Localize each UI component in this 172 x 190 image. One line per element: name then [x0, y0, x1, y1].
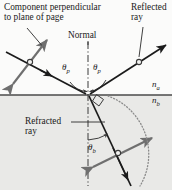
theta-b-subscript: b	[92, 147, 95, 154]
brewster-angle-diagram: Component perpendicular to plane of page…	[0, 0, 172, 190]
label-component-perpendicular-line2: to plane of page	[4, 12, 101, 22]
label-refracted-ray-line1: Refracted	[25, 116, 61, 126]
label-index-nb: nb	[152, 96, 160, 107]
label-index-na: na	[152, 80, 160, 91]
label-reflected-ray-line1: Reflected	[131, 2, 167, 12]
label-normal: Normal	[68, 30, 96, 40]
label-refracted-ray-line2: ray	[25, 126, 61, 136]
label-component-perpendicular-line1: Component perpendicular	[4, 2, 101, 12]
diagram-canvas	[0, 0, 172, 190]
medium-lower-region	[0, 95, 172, 190]
label-component-perpendicular: Component perpendicular to plane of page	[4, 2, 101, 22]
label-reflected-ray-line2: ray	[131, 12, 167, 22]
na-subscript: a	[157, 84, 160, 91]
label-refracted-ray: Refracted ray	[25, 116, 61, 136]
reflected-perpendicular-component-dot	[136, 59, 141, 64]
label-reflected-ray: Reflected ray	[131, 2, 167, 22]
theta-p-incident-subscript: p	[66, 67, 69, 74]
theta-p-reflected-subscript: p	[97, 67, 100, 74]
label-theta-p-incident: θp	[62, 63, 70, 74]
label-theta-b-refracted: θb	[88, 143, 96, 154]
label-theta-p-reflected: θp	[93, 63, 101, 74]
incident-perpendicular-component-dot	[27, 59, 32, 64]
refracted-perpendicular-component-dot	[115, 150, 120, 155]
nb-subscript: b	[157, 100, 160, 107]
